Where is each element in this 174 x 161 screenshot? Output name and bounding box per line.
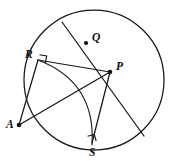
geometry-figure: P Q R S A: [0, 0, 174, 161]
point-dot-A: [17, 123, 22, 128]
arc-R-to-S: [38, 60, 92, 145]
segment-R-to-P: [38, 60, 110, 72]
point-label-A: A: [6, 119, 14, 131]
chord-through-Q-and-P: [62, 22, 144, 136]
point-label-P: P: [116, 61, 123, 73]
point-label-S: S: [89, 147, 95, 159]
point-dot-P: [108, 70, 113, 75]
point-label-R: R: [25, 49, 33, 61]
point-label-Q: Q: [92, 32, 100, 44]
point-dot-Q: [84, 41, 88, 45]
diagram-canvas: [0, 0, 174, 161]
segment-P-to-S: [92, 72, 110, 143]
